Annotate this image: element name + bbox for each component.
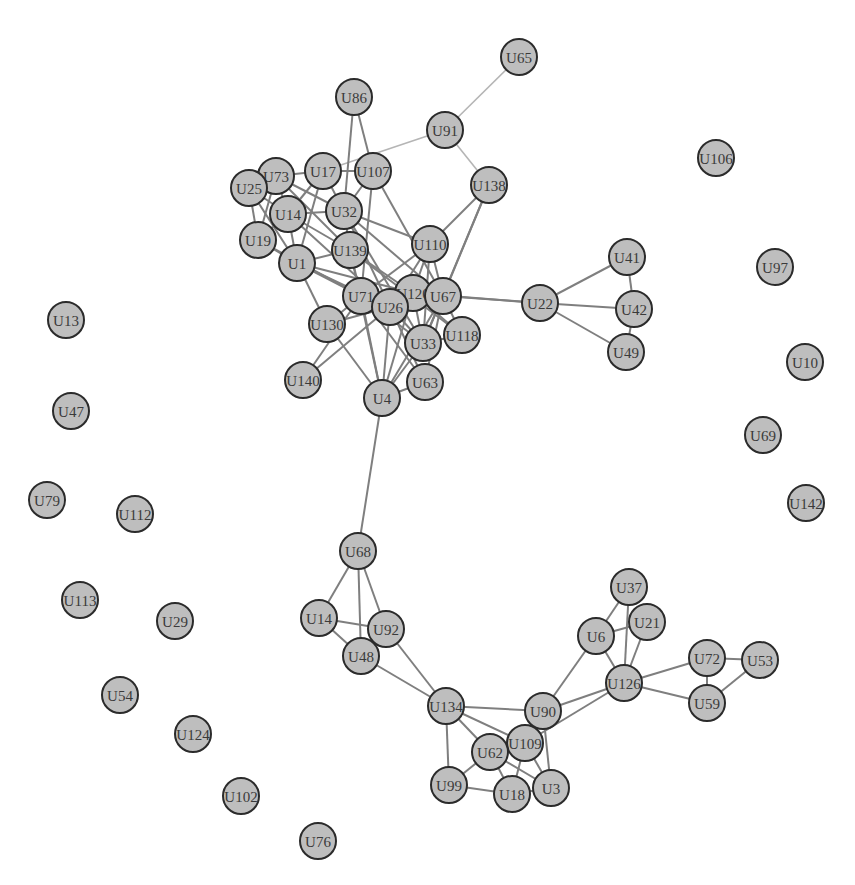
node-label: U53 (747, 653, 773, 669)
node-u26[interactable]: U26 (372, 289, 408, 325)
node-u97[interactable]: U97 (757, 249, 793, 285)
node-u76[interactable]: U76 (300, 823, 336, 859)
node-u86[interactable]: U86 (336, 79, 372, 115)
node-u54[interactable]: U54 (102, 677, 138, 713)
node-label: U71 (348, 289, 374, 305)
node-label: U32 (331, 204, 357, 220)
node-u53[interactable]: U53 (742, 642, 778, 678)
node-label: U76 (305, 834, 331, 850)
node-label: U107 (356, 164, 390, 180)
node-label: U19 (245, 233, 271, 249)
node-u112[interactable]: U112 (117, 496, 153, 532)
node-u18[interactable]: U18 (494, 776, 530, 812)
node-u65[interactable]: U65 (501, 39, 537, 75)
node-u79[interactable]: U79 (29, 482, 65, 518)
node-u138[interactable]: U138 (471, 167, 507, 203)
node-u110[interactable]: U110 (412, 226, 448, 262)
node-u130[interactable]: U130 (309, 306, 345, 342)
node-label: U26 (377, 300, 403, 316)
node-label: U72 (694, 651, 720, 667)
node-label: U69 (750, 428, 776, 444)
node-label: U18 (499, 787, 525, 803)
node-u106[interactable]: U106 (698, 140, 734, 176)
node-u139[interactable]: U139 (332, 232, 368, 268)
node-label: U63 (412, 375, 438, 391)
node-u48[interactable]: U48 (343, 638, 379, 674)
node-label: U97 (762, 260, 788, 276)
node-label: U65 (506, 50, 532, 66)
node-u19[interactable]: U19 (240, 222, 276, 258)
node-u4[interactable]: U4 (364, 380, 400, 416)
node-label: U22 (527, 296, 553, 312)
node-label: U110 (414, 237, 447, 253)
node-label: U134 (429, 699, 463, 715)
node-u90[interactable]: U90 (525, 693, 561, 729)
node-u126[interactable]: U126 (606, 665, 642, 701)
node-u10[interactable]: U10 (787, 344, 823, 380)
node-label: U142 (789, 496, 822, 512)
node-layer: U65U86U91U106U73U17U107U25U138U14U32U19U… (29, 39, 824, 859)
node-label: U139 (333, 243, 366, 259)
node-u72[interactable]: U72 (689, 640, 725, 676)
node-u32[interactable]: U32 (326, 193, 362, 229)
node-u17[interactable]: U17 (305, 153, 341, 189)
node-u25[interactable]: U25 (231, 170, 267, 206)
node-u113[interactable]: U113 (62, 582, 98, 618)
node-u124[interactable]: U124 (175, 716, 211, 752)
node-u109[interactable]: U109 (507, 725, 543, 761)
node-label: U41 (614, 250, 640, 266)
node-u69[interactable]: U69 (745, 417, 781, 453)
node-label: U67 (430, 289, 456, 305)
node-u63[interactable]: U63 (407, 364, 443, 400)
node-u107[interactable]: U107 (355, 153, 391, 189)
node-u42[interactable]: U42 (616, 291, 652, 327)
network-graph: U65U86U91U106U73U17U107U25U138U14U32U19U… (0, 0, 855, 885)
node-label: U138 (472, 178, 505, 194)
node-label: U79 (34, 493, 60, 509)
node-u13[interactable]: U13 (48, 302, 84, 338)
node-label: U13 (53, 313, 79, 329)
node-u99[interactable]: U99 (431, 767, 467, 803)
node-label: U109 (508, 736, 541, 752)
node-u62[interactable]: U62 (472, 734, 508, 770)
node-u118[interactable]: U118 (444, 317, 480, 353)
node-label: U118 (446, 328, 479, 344)
node-u29[interactable]: U29 (157, 603, 193, 639)
node-label: U37 (616, 580, 642, 596)
node-u92[interactable]: U92 (368, 611, 404, 647)
node-u21[interactable]: U21 (629, 604, 665, 640)
node-u22[interactable]: U22 (522, 285, 558, 321)
node-u91[interactable]: U91 (427, 112, 463, 148)
node-u68[interactable]: U68 (340, 533, 376, 569)
node-label: U21 (634, 615, 660, 631)
edge-u4-u68 (358, 398, 382, 551)
node-label: U130 (310, 317, 343, 333)
node-u14[interactable]: U14 (270, 196, 306, 232)
node-label: U62 (477, 745, 503, 761)
node-label: U91 (432, 123, 458, 139)
node-label: U86 (341, 90, 367, 106)
node-u3[interactable]: U3 (533, 770, 569, 806)
node-label: U68 (345, 544, 371, 560)
node-u142[interactable]: U142 (788, 485, 824, 521)
node-u33[interactable]: U33 (405, 325, 441, 361)
node-u140[interactable]: U140 (285, 362, 321, 398)
node-label: U33 (410, 336, 436, 352)
node-u134[interactable]: U134 (428, 688, 464, 724)
node-u1[interactable]: U1 (279, 245, 315, 281)
node-u6[interactable]: U6 (578, 618, 614, 654)
node-label: U124 (176, 727, 210, 743)
node-u47[interactable]: U47 (53, 393, 89, 429)
node-label: U99 (436, 778, 462, 794)
node-u49[interactable]: U49 (608, 334, 644, 370)
node-u14[interactable]: U14 (301, 600, 337, 636)
node-u41[interactable]: U41 (609, 239, 645, 275)
node-u67[interactable]: U67 (425, 278, 461, 314)
node-u37[interactable]: U37 (611, 569, 647, 605)
node-label: U47 (58, 404, 84, 420)
node-label: U102 (224, 789, 257, 805)
node-label: U113 (64, 593, 97, 609)
node-u59[interactable]: U59 (689, 685, 725, 721)
node-u102[interactable]: U102 (223, 778, 259, 814)
node-label: U4 (373, 391, 392, 407)
